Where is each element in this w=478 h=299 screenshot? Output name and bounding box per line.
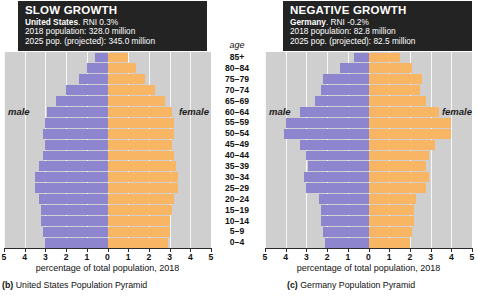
age-band-label: 30–34 <box>215 172 259 183</box>
pyramid-row <box>265 204 472 215</box>
pyramid-row <box>265 183 472 194</box>
age-band-list: 85+80–8475–7970–7465–6960–6455–5950–5445… <box>215 52 259 248</box>
bar-male <box>286 118 369 128</box>
pyramid-row <box>4 215 211 226</box>
header-pop-2025: 2025 pop. (projected): 82.5 million <box>290 37 466 47</box>
age-band-label: 15–19 <box>215 204 259 215</box>
bar-female <box>108 63 137 73</box>
gridline <box>472 52 473 248</box>
bar-male <box>323 74 369 84</box>
bar-female <box>108 161 176 171</box>
x-axis: 54321012345 <box>4 248 211 262</box>
pyramid-row <box>4 63 211 74</box>
axis-tick-label: 2 <box>325 252 330 262</box>
bar-male <box>87 63 108 73</box>
axis-tick-label: 4 <box>188 252 193 262</box>
bar-female <box>108 238 168 248</box>
bar-male <box>321 216 369 226</box>
header-box-germany: NEGATIVE GROWTH Germany. RNI -0.2% 2018 … <box>283 1 472 51</box>
header-pop-2025: 2025 pop. (projected): 345.0 million <box>25 37 201 47</box>
pyramid-row <box>4 96 211 107</box>
bar-male <box>284 129 369 139</box>
pyramid-row <box>4 161 211 172</box>
bar-male <box>321 85 369 95</box>
age-band-label: 55–59 <box>215 117 259 128</box>
axis-tick-label: 2 <box>408 252 413 262</box>
caption-key: (b) <box>2 280 13 290</box>
bar-male <box>300 140 368 150</box>
pyramid-row <box>265 128 472 139</box>
bar-female <box>369 107 439 117</box>
label-female: female <box>179 106 209 117</box>
pyramid-row <box>4 128 211 139</box>
axis-tick-label: 5 <box>263 252 268 262</box>
bar-female <box>108 53 129 63</box>
age-band-label: 70–74 <box>215 85 259 96</box>
bar-male <box>45 238 107 248</box>
panel-germany: NEGATIVE GROWTH Germany. RNI -0.2% 2018 … <box>259 0 478 299</box>
axis-tick-label: 0 <box>366 252 371 262</box>
age-band-label: 45–49 <box>215 139 259 150</box>
age-band-label: 80–84 <box>215 63 259 74</box>
pyramid-row <box>265 52 472 63</box>
bar-female <box>108 205 172 215</box>
header-box-united-states: SLOW GROWTH United States. RNI 0.3% 2018… <box>18 1 207 51</box>
axis-tick-label: 5 <box>2 252 7 262</box>
caption-key: (c) <box>287 280 298 290</box>
pyramid-row <box>265 63 472 74</box>
panel-united-states: SLOW GROWTH United States. RNI 0.3% 2018… <box>0 0 215 299</box>
age-band-label: 5–9 <box>215 226 259 237</box>
bar-male <box>41 205 107 215</box>
bar-female <box>369 151 429 161</box>
bar-female <box>108 85 156 95</box>
pyramid-row <box>265 194 472 205</box>
bar-female <box>108 183 178 193</box>
header-title: NEGATIVE GROWTH <box>290 4 466 18</box>
pyramid-row <box>265 215 472 226</box>
pyramid-row <box>4 85 211 96</box>
axis-tick-label: 0 <box>105 252 110 262</box>
panel-caption: (b) United States Population Pyramid <box>2 280 147 290</box>
bar-male <box>66 85 107 95</box>
pyramid-row <box>4 150 211 161</box>
pyramid-row <box>4 204 211 215</box>
age-band-label: 50–54 <box>215 128 259 139</box>
axis-tick-label: 1 <box>126 252 131 262</box>
pyramid-row <box>4 74 211 85</box>
bar-male <box>43 129 107 139</box>
pyramid-row <box>4 117 211 128</box>
bar-male <box>41 216 107 226</box>
bar-male <box>35 183 107 193</box>
bar-female <box>108 172 178 182</box>
pyramid-row <box>4 194 211 205</box>
panel-caption: (c) Germany Population Pyramid <box>287 280 415 290</box>
bar-female <box>108 107 172 117</box>
age-band-label: 10–14 <box>215 215 259 226</box>
age-band-label: 25–29 <box>215 183 259 194</box>
bar-male <box>304 172 368 182</box>
age-band-label: 75–79 <box>215 74 259 85</box>
bar-female <box>108 74 145 84</box>
label-female: female <box>442 106 472 117</box>
pyramid-row <box>265 117 472 128</box>
bar-male <box>39 161 107 171</box>
pyramid-row <box>265 85 472 96</box>
pyramid-row <box>265 139 472 150</box>
bar-female <box>369 194 417 204</box>
bar-female <box>369 227 412 237</box>
bar-male <box>300 107 368 117</box>
age-band-label: 0–4 <box>215 237 259 248</box>
pyramid-row <box>265 74 472 85</box>
bar-male <box>45 118 107 128</box>
pyramid-row <box>4 237 211 248</box>
axis-tick-label: 2 <box>147 252 152 262</box>
age-band-label: 85+ <box>215 52 259 63</box>
bar-male <box>308 161 368 171</box>
bar-female <box>369 63 412 73</box>
bar-female <box>108 118 174 128</box>
axis-tick-label: 5 <box>209 252 214 262</box>
bar-male <box>56 96 108 106</box>
bar-male <box>43 151 107 161</box>
axis-tick-label: 5 <box>470 252 475 262</box>
age-band-label: 40–44 <box>215 150 259 161</box>
